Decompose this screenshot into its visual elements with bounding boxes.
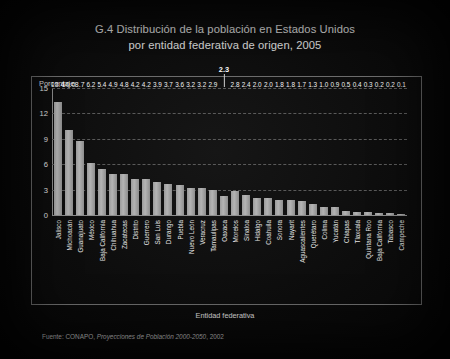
bar-cell: 1.8 bbox=[274, 88, 285, 215]
category-label: Chihuahua bbox=[110, 220, 117, 250]
bar-cell: 2.8 bbox=[230, 88, 241, 215]
bar-value-label: 1.7 bbox=[297, 81, 306, 88]
bar-cell: 0.2 bbox=[385, 88, 396, 215]
bar-value-label: 8.7 bbox=[75, 81, 85, 88]
source-note: Fuente: CONAPO, Proyecciones de Població… bbox=[42, 333, 224, 340]
bar[interactable]: 13.4 bbox=[54, 102, 62, 215]
bar[interactable]: 0.2 bbox=[386, 213, 394, 215]
category-label: Sonora bbox=[276, 220, 283, 240]
bar-cell: 8.7 bbox=[74, 88, 85, 215]
axis-baseline bbox=[52, 215, 407, 216]
category-label: Querétaro bbox=[309, 220, 316, 248]
bar-value-label: 0.2 bbox=[386, 81, 395, 88]
bar[interactable]: 2.8 bbox=[231, 191, 239, 215]
category-cell: Puebla bbox=[174, 220, 185, 304]
source-italic: Proyecciones de Población 2000-2050 bbox=[97, 333, 206, 340]
bar-value-label: 4.2 bbox=[142, 81, 151, 88]
bar-value-label: 1.8 bbox=[275, 81, 284, 88]
bar-value-label: 3.9 bbox=[153, 81, 162, 88]
bar[interactable]: 3.2 bbox=[187, 188, 195, 215]
category-cell: Baja California bbox=[96, 220, 107, 304]
bar[interactable]: 0.1 bbox=[397, 214, 405, 215]
bar[interactable]: 2.0 bbox=[253, 198, 261, 215]
category-cell: Zacatecas bbox=[119, 220, 130, 304]
bar[interactable]: 1.0 bbox=[320, 207, 328, 215]
category-cell: Chiapas bbox=[340, 220, 351, 304]
chart-title: G.4 Distribución de la población en Esta… bbox=[0, 22, 450, 53]
bar-cell: 0.3 bbox=[363, 88, 374, 215]
bar-cell: 1.7 bbox=[296, 88, 307, 215]
category-label: Jalisco bbox=[54, 220, 61, 239]
bar[interactable]: 0.2 bbox=[375, 213, 383, 215]
bar[interactable]: 2.9 bbox=[209, 190, 217, 215]
bar[interactable]: 1.7 bbox=[298, 201, 306, 215]
category-cell: Yucatán bbox=[329, 220, 340, 304]
category-label: Tabasco bbox=[387, 220, 394, 243]
bar[interactable]: 1.3 bbox=[309, 204, 317, 215]
category-cell: Tamaulipas bbox=[207, 220, 218, 304]
category-label: Guerrero bbox=[143, 220, 150, 245]
bar-value-label: 2.0 bbox=[264, 81, 273, 88]
x-axis-category-labels: JaliscoMichoacánGuanajuatoMéxicoBaja Cal… bbox=[52, 220, 407, 304]
category-cell: Michoacán bbox=[63, 220, 74, 304]
category-cell: Guerrero bbox=[141, 220, 152, 304]
bar-value-label: 3.7 bbox=[164, 81, 173, 88]
bar-cell: 2.0 bbox=[252, 88, 263, 215]
chart-title-line-2: por entidad federativa de origen, 2005 bbox=[0, 38, 450, 54]
bar[interactable]: 1.8 bbox=[275, 200, 283, 215]
y-tick-12: 12 bbox=[24, 109, 48, 118]
chart-title-line-1: G.4 Distribución de la población en Esta… bbox=[0, 22, 450, 38]
bar[interactable]: 2.0 bbox=[264, 198, 272, 215]
bar[interactable]: 1.8 bbox=[287, 200, 295, 215]
category-cell: Colima bbox=[318, 220, 329, 304]
category-label: Colima bbox=[320, 220, 327, 240]
y-tick-15: 15 bbox=[24, 84, 48, 93]
bar[interactable]: 10.0 bbox=[65, 130, 73, 215]
category-cell: Nuevo León bbox=[185, 220, 196, 304]
bar-value-label: 10.0 bbox=[62, 81, 76, 88]
bar-value-label: 2.3 bbox=[219, 65, 229, 74]
bar[interactable]: 4.2 bbox=[131, 179, 139, 215]
source-suffix: , 2002 bbox=[206, 333, 224, 340]
bar-cell: 1.8 bbox=[285, 88, 296, 215]
bar[interactable]: 3.7 bbox=[164, 184, 172, 215]
bar[interactable]: 3.9 bbox=[153, 182, 161, 215]
category-label: Nayarit bbox=[287, 220, 294, 240]
bar[interactable]: 8.7 bbox=[76, 141, 84, 215]
bar[interactable]: 6.2 bbox=[87, 163, 95, 215]
category-label: Yucatán bbox=[331, 220, 338, 243]
bar[interactable]: 4.9 bbox=[109, 174, 117, 215]
y-tick-9: 9 bbox=[24, 134, 48, 143]
bar-cell: 6.2 bbox=[85, 88, 96, 215]
bar-cell: 1.0 bbox=[318, 88, 329, 215]
bar-value-label: 6.2 bbox=[86, 81, 95, 88]
bar-cell: 0.9 bbox=[329, 88, 340, 215]
bar[interactable]: 5.4 bbox=[98, 169, 106, 215]
bar-value-label: 4.9 bbox=[109, 81, 118, 88]
category-label: Distrito bbox=[132, 220, 139, 240]
bar[interactable]: 4.2 bbox=[142, 179, 150, 215]
category-cell: Baja California bbox=[374, 220, 385, 304]
bar[interactable]: 0.3 bbox=[364, 212, 372, 215]
bar[interactable]: 3.2 bbox=[198, 188, 206, 215]
category-label: Tamaulipas bbox=[209, 220, 216, 252]
category-cell: Quintana Roo bbox=[363, 220, 374, 304]
category-cell: Morelos bbox=[230, 220, 241, 304]
bar[interactable]: 3.6 bbox=[176, 185, 184, 215]
bar-value-label: 0.1 bbox=[397, 81, 406, 88]
category-label: Zacatecas bbox=[121, 220, 128, 249]
y-tick-0: 0 bbox=[24, 211, 48, 220]
category-label: Sinaloa bbox=[243, 220, 250, 241]
bar[interactable]: 0.5 bbox=[342, 211, 350, 215]
category-label: Aguascalientes bbox=[298, 220, 305, 263]
bar[interactable]: 0.9 bbox=[331, 207, 339, 215]
bar-value-label: 0.5 bbox=[342, 81, 351, 88]
bar[interactable]: 0.4 bbox=[353, 212, 361, 215]
category-cell: San Luis bbox=[152, 220, 163, 304]
bar-cell: 4.2 bbox=[130, 88, 141, 215]
bar[interactable]: 4.8 bbox=[120, 174, 128, 215]
y-tick-6: 6 bbox=[24, 160, 48, 169]
bar[interactable]: 2.4 bbox=[242, 195, 250, 215]
bar[interactable]: 2.3 bbox=[220, 196, 228, 215]
category-cell: Jalisco bbox=[52, 220, 63, 304]
